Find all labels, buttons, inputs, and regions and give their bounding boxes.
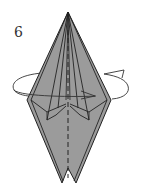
- arrowhead-icon: [104, 70, 124, 78]
- step-number: 6: [14, 25, 23, 39]
- origami-step-diagram: 6: [0, 0, 141, 191]
- model-outline: [27, 12, 111, 183]
